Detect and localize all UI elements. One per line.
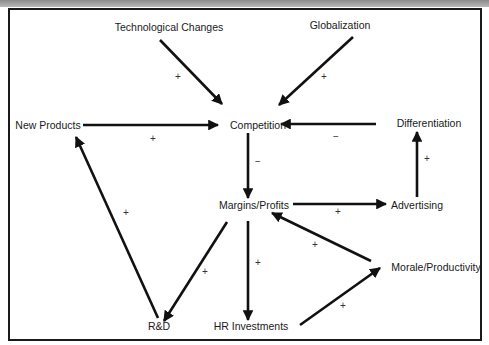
sign-advertising-differentiation: + <box>424 154 430 164</box>
node-advertising: Advertising <box>391 200 443 211</box>
causal-loop-arrows <box>0 0 489 345</box>
sign-competition-margins: − <box>255 157 261 167</box>
arrow-tech-to-competition <box>160 40 222 104</box>
node-new-products: New Products <box>15 120 80 131</box>
sign-globalization-competition: + <box>321 72 327 82</box>
node-hr-investments: HR Investments <box>214 321 289 332</box>
arrow-margins-to-rd <box>164 222 227 321</box>
sign-margins-advertising: + <box>335 207 341 217</box>
arrow-globalization-to-competition <box>279 37 353 105</box>
node-technological-changes: Technological Changes <box>115 22 224 33</box>
arrow-morale-to-margins <box>272 213 371 261</box>
node-competition: Competition <box>230 120 286 131</box>
sign-margins-rd: + <box>202 267 208 277</box>
sign-hr-morale: + <box>340 301 346 311</box>
sign-margins-hr: + <box>255 258 261 268</box>
sign-rd-newproducts: + <box>123 208 129 218</box>
sign-morale-margins: + <box>312 240 318 250</box>
arrow-hr-to-morale <box>300 268 380 325</box>
node-rd: R&D <box>148 321 170 332</box>
sign-newproducts-competition: + <box>150 134 156 144</box>
node-globalization: Globalization <box>310 20 371 31</box>
node-morale-productivity: Morale/Productivity <box>391 262 480 273</box>
sign-tech-competition: + <box>175 72 181 82</box>
arrow-rd-to-newproducts <box>76 137 158 318</box>
node-differentiation: Differentiation <box>397 118 462 129</box>
sign-differentiation-competition: − <box>333 132 339 142</box>
node-margins-profits: Margins/Profits <box>219 200 289 211</box>
